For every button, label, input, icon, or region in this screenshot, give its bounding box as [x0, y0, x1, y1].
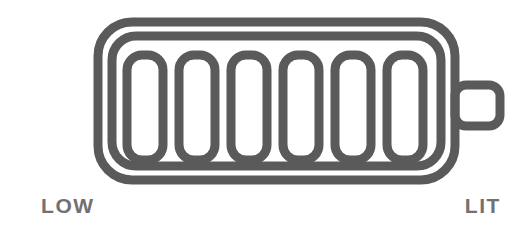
battery-charge-gauge: LOW LIT: [0, 0, 528, 234]
battery-terminal-nub: [455, 85, 500, 126]
gauge-label-low: LOW: [41, 195, 95, 216]
gauge-label-lit: LIT: [465, 195, 501, 216]
